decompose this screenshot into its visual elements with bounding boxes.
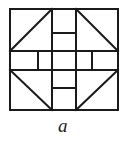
- quilt-block-diagram: [0, 0, 126, 120]
- figure-caption: a: [0, 114, 126, 138]
- diagram-background: [0, 0, 126, 120]
- figure-container: a: [0, 0, 126, 141]
